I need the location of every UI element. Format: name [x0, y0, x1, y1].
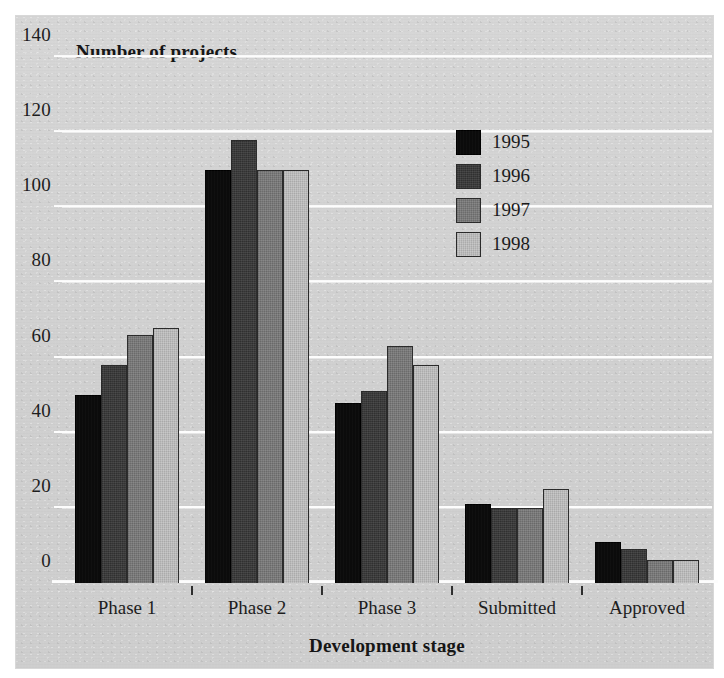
bar[interactable] [361, 391, 387, 583]
legend-label: 1996 [492, 165, 530, 187]
x-tick-label: Phase 1 [98, 597, 157, 619]
legend-swatch-icon [456, 130, 481, 155]
legend-item[interactable]: 1995 [456, 125, 586, 159]
bar[interactable] [75, 395, 101, 583]
x-tick-mark [321, 586, 323, 595]
y-tick-dash-60 [54, 356, 62, 358]
bar[interactable] [283, 170, 309, 583]
y-tick-dash-100 [54, 205, 62, 207]
x-tick-label: Phase 2 [228, 597, 287, 619]
legend-item[interactable]: 1996 [456, 159, 586, 193]
legend-label: 1998 [492, 233, 530, 255]
x-tick-label: Approved [609, 597, 685, 619]
bar[interactable] [257, 170, 283, 583]
bar[interactable] [335, 403, 361, 583]
chart-panel: Number of projects 020406080100120140 Ph… [16, 16, 713, 668]
y-tick-dash-120 [54, 130, 62, 132]
x-axis-title: Development stage [62, 635, 712, 657]
legend-item[interactable]: 1997 [456, 193, 586, 227]
bar[interactable] [101, 365, 127, 583]
bar-chart-figure: Number of projects 020406080100120140 Ph… [0, 0, 724, 678]
x-tick-label: Submitted [478, 597, 556, 619]
y-tick-dash-80 [54, 280, 62, 282]
legend: 1995199619971998 [456, 125, 586, 261]
bar[interactable] [621, 549, 647, 583]
bar-groups: Phase 1Phase 2Phase 3SubmittedApproved [62, 57, 712, 583]
y-tick-label-80: 80 [32, 249, 51, 271]
x-tick-label: Phase 3 [358, 597, 417, 619]
x-tick-mark [191, 586, 193, 595]
bar-group: Phase 2 [192, 57, 322, 583]
y-tick-label-140: 140 [22, 24, 51, 46]
bar[interactable] [205, 170, 231, 583]
bar[interactable] [595, 542, 621, 583]
y-tick-label-100: 100 [22, 174, 51, 196]
bars [595, 57, 699, 583]
legend-swatch-icon [456, 198, 481, 223]
legend-label: 1995 [492, 131, 530, 153]
bars [75, 57, 179, 583]
y-tick-label-120: 120 [22, 99, 51, 121]
legend-label: 1997 [492, 199, 530, 221]
y-tick-label-60: 60 [32, 325, 51, 347]
x-tick-mark [451, 586, 453, 595]
y-tick-dash-140 [54, 55, 62, 57]
bar-group: Approved [582, 57, 712, 583]
y-tick-label-0: 0 [41, 550, 51, 572]
bar[interactable] [517, 508, 543, 583]
bar[interactable] [413, 365, 439, 583]
y-tick-label-40: 40 [32, 400, 51, 422]
y-tick-dash-20 [54, 506, 62, 508]
plot-area: 020406080100120140 Phase 1Phase 2Phase 3… [62, 57, 712, 583]
y-tick-label-20: 20 [32, 475, 51, 497]
x-tick-mark [581, 586, 583, 595]
bar[interactable] [387, 346, 413, 583]
bar[interactable] [465, 504, 491, 583]
bar[interactable] [153, 328, 179, 583]
bar[interactable] [647, 560, 673, 583]
legend-swatch-icon [456, 164, 481, 189]
bar[interactable] [673, 560, 699, 583]
y-tick-dash-40 [54, 431, 62, 433]
bar[interactable] [543, 489, 569, 583]
bar[interactable] [491, 508, 517, 583]
bar[interactable] [127, 335, 153, 583]
legend-item[interactable]: 1998 [456, 227, 586, 261]
bar-group: Phase 1 [62, 57, 192, 583]
bars [335, 57, 439, 583]
legend-swatch-icon [456, 232, 481, 257]
bar[interactable] [231, 140, 257, 583]
bar-group: Phase 3 [322, 57, 452, 583]
bars [205, 57, 309, 583]
